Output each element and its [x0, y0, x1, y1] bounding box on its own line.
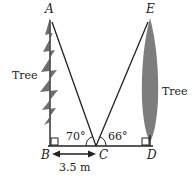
- label-B: B: [40, 148, 50, 162]
- angle-arc-70: [86, 137, 93, 146]
- angle-label-66: 66°: [108, 130, 128, 143]
- right-tree-label: Tree: [162, 85, 188, 98]
- left-tree-icon: [40, 18, 58, 146]
- tree-angle-diagram: A E B C D Tree Tree 70° 66° 3.5 m: [0, 0, 193, 176]
- right-angle-D: [142, 138, 149, 145]
- distance-label: 3.5 m: [59, 161, 91, 174]
- left-tree-label: Tree: [12, 69, 38, 82]
- distance-arrow: [52, 151, 96, 158]
- angle-arc-66: [100, 137, 106, 146]
- label-E: E: [145, 2, 155, 16]
- right-tree-icon: [142, 18, 158, 146]
- label-C: C: [99, 148, 108, 162]
- label-A: A: [44, 2, 54, 16]
- angle-label-70: 70°: [66, 130, 86, 143]
- label-D: D: [146, 148, 157, 162]
- right-angle-B: [51, 138, 58, 145]
- line-AC: [52, 22, 96, 146]
- line-EC: [96, 22, 148, 146]
